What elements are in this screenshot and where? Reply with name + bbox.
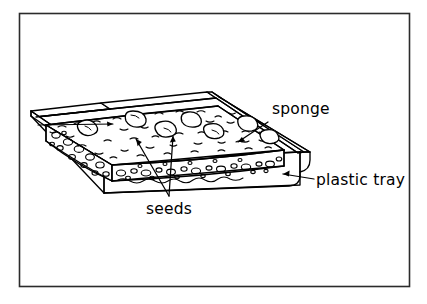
seed bbox=[181, 112, 201, 127]
seed bbox=[125, 111, 146, 127]
tray-lip-corner-joint bbox=[298, 152, 300, 153]
seed bbox=[155, 121, 177, 137]
seed bbox=[260, 130, 279, 144]
label-sponge: sponge bbox=[272, 100, 330, 118]
figure-container: sponge plastic tray seeds bbox=[0, 0, 427, 304]
label-seeds: seeds bbox=[146, 200, 192, 218]
seed bbox=[77, 120, 97, 136]
label-plastic-tray: plastic tray bbox=[316, 171, 405, 189]
seed bbox=[238, 116, 258, 131]
seed bbox=[204, 124, 224, 139]
seed-tray-diagram: sponge plastic tray seeds bbox=[0, 0, 427, 304]
